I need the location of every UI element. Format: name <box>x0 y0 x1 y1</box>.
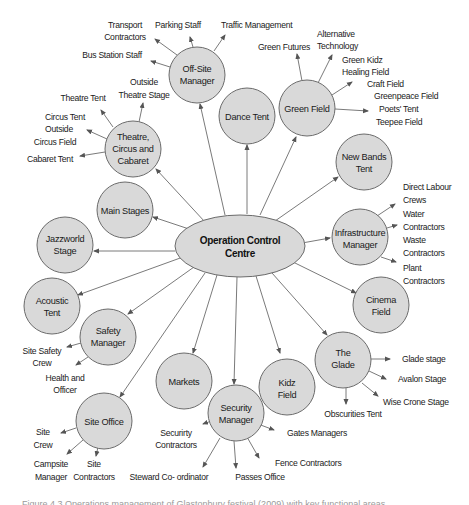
svg-text:Technology: Technology <box>317 41 359 51</box>
svg-text:Contractors: Contractors <box>403 276 445 286</box>
svg-text:Jazzworld: Jazzworld <box>46 234 85 244</box>
edge-to-cinema-field <box>293 262 356 293</box>
svg-text:Acoustic: Acoustic <box>36 296 69 306</box>
svg-text:Water: Water <box>403 209 425 219</box>
svg-text:Security: Security <box>220 403 252 413</box>
svg-text:Fence Contractors: Fence Contractors <box>275 458 341 468</box>
svg-text:Avalon Stage: Avalon Stage <box>398 374 446 384</box>
svg-text:Securirty: Securirty <box>160 428 193 438</box>
svg-text:Tent: Tent <box>356 164 373 174</box>
node-main-stages[interactable]: Main Stages <box>97 182 153 238</box>
svg-text:Transport: Transport <box>108 20 143 30</box>
svg-text:Gates Managers: Gates Managers <box>287 428 347 438</box>
node-acoustic-tent[interactable]: Acoustic Tent <box>24 278 80 334</box>
svg-text:Officer: Officer <box>53 385 77 395</box>
svg-text:Main Stages: Main Stages <box>101 206 150 216</box>
svg-text:Theatre,: Theatre, <box>117 132 149 142</box>
svg-text:Glade: Glade <box>331 360 354 370</box>
svg-text:Obscurities Tent: Obscurities Tent <box>324 409 382 419</box>
svg-text:Craft Field: Craft Field <box>367 79 404 89</box>
svg-text:Circus Tent: Circus Tent <box>45 112 86 122</box>
svg-text:Waste: Waste <box>403 235 426 245</box>
node-the-glade[interactable]: The Glade <box>315 332 371 388</box>
central-label-line-2: Centre <box>225 248 256 259</box>
node-site-office[interactable]: Site Office <box>76 393 132 449</box>
svg-text:Direct Labour: Direct Labour <box>403 182 452 192</box>
node-markets[interactable]: Markets <box>156 353 212 409</box>
svg-text:Health and: Health and <box>45 373 85 383</box>
svg-text:Cabaret: Cabaret <box>118 156 150 166</box>
svg-text:Site Safety: Site Safety <box>23 346 63 356</box>
edge-to-infrastructure-manager <box>302 238 330 243</box>
svg-text:Site: Site <box>36 427 50 437</box>
svg-text:New Bands: New Bands <box>342 152 387 162</box>
svg-text:Stage: Stage <box>54 246 77 256</box>
central-label-line-1: Operation Control <box>200 235 281 246</box>
edge-to-markets <box>193 275 217 353</box>
node-green-field[interactable]: Green Field <box>279 80 335 136</box>
svg-text:Green Futures: Green Futures <box>258 42 310 52</box>
svg-text:Steward Co- ordinator: Steward Co- ordinator <box>130 472 209 482</box>
svg-text:Circus and: Circus and <box>112 144 154 154</box>
svg-text:Plant: Plant <box>403 263 422 273</box>
svg-text:Theatre Stage: Theatre Stage <box>118 90 170 100</box>
svg-text:Circus Field: Circus Field <box>34 137 77 147</box>
svg-text:Contractors: Contractors <box>403 248 445 258</box>
svg-text:Passes Office: Passes Office <box>235 472 285 482</box>
node-operation-control-centre[interactable]: Operation Control Centre <box>175 215 305 277</box>
svg-text:Manager: Manager <box>343 240 378 250</box>
node-infrastructure-manager[interactable]: Infrastructure Manager <box>332 209 388 265</box>
svg-text:Site Office: Site Office <box>84 417 124 427</box>
svg-text:Safety: Safety <box>96 326 121 336</box>
leaves-safety-manager: Site Safety Crew Health and Officer <box>23 346 85 395</box>
svg-text:Theatre Tent: Theatre Tent <box>60 93 106 103</box>
node-security-manager[interactable]: Security Manager <box>208 385 264 441</box>
edge-to-new-bands-tent <box>275 177 338 221</box>
edge-to-safety-manager <box>128 267 194 314</box>
edge-to-the-glade <box>272 273 327 335</box>
svg-text:Crew: Crew <box>32 358 52 368</box>
node-off-site-manager[interactable]: Off-Site Manager <box>169 47 225 103</box>
svg-text:Manager: Manager <box>35 472 68 482</box>
node-theatre-circus-cabaret[interactable]: Theatre, Circus and Cabaret <box>105 121 161 177</box>
svg-text:Glade stage: Glade stage <box>402 354 446 364</box>
svg-text:Bus Station Staff: Bus Station Staff <box>82 50 142 60</box>
svg-text:Traffic Management: Traffic Management <box>221 20 293 30</box>
svg-text:Contractors: Contractors <box>155 440 197 450</box>
svg-text:Green Kidz: Green Kidz <box>342 55 383 65</box>
edge-to-theatre-circus-cabaret <box>156 169 205 222</box>
node-safety-manager[interactable]: Safety Manager <box>80 309 136 365</box>
svg-text:Wise Crone Stage: Wise Crone Stage <box>383 397 449 407</box>
svg-text:Green Field: Green Field <box>284 104 329 114</box>
svg-text:Dance Tent: Dance Tent <box>225 112 270 122</box>
svg-text:Infrastructure: Infrastructure <box>335 228 386 238</box>
edge-to-security-manager <box>234 277 237 384</box>
svg-text:Field: Field <box>372 307 391 317</box>
node-new-bands-tent[interactable]: New Bands Tent <box>336 134 392 190</box>
svg-text:Contractors: Contractors <box>104 32 146 42</box>
svg-text:Off-Site: Off-Site <box>183 64 212 74</box>
node-kidz-field[interactable]: Kidz Field <box>259 359 315 415</box>
svg-text:Teepee Field: Teepee Field <box>376 117 423 127</box>
svg-text:Outside: Outside <box>130 77 158 87</box>
node-jazzworld-stage[interactable]: Jazzworld Stage <box>37 217 93 273</box>
node-cinema-field[interactable]: Cinema Field <box>353 277 409 333</box>
svg-text:Campsite: Campsite <box>34 459 69 469</box>
svg-text:Cabaret Tent: Cabaret Tent <box>27 154 74 164</box>
svg-text:Contractors: Contractors <box>403 222 445 232</box>
svg-text:Outside: Outside <box>45 124 73 134</box>
svg-text:Site: Site <box>87 459 101 469</box>
svg-text:Field: Field <box>278 390 297 400</box>
svg-text:Manager: Manager <box>91 338 126 348</box>
svg-text:Contractors: Contractors <box>73 472 115 482</box>
svg-text:Markets: Markets <box>169 377 201 387</box>
svg-text:Manager: Manager <box>219 415 254 425</box>
svg-text:Crews: Crews <box>403 195 426 205</box>
svg-text:Parking Staff: Parking Staff <box>155 20 202 30</box>
svg-text:Kidz: Kidz <box>279 378 297 388</box>
edge-to-green-field <box>260 137 296 215</box>
svg-text:Cinema: Cinema <box>366 295 397 305</box>
svg-text:Poets' Tent: Poets' Tent <box>379 104 419 114</box>
svg-text:Tent: Tent <box>44 308 61 318</box>
node-dance-tent[interactable]: Dance Tent <box>219 88 275 144</box>
